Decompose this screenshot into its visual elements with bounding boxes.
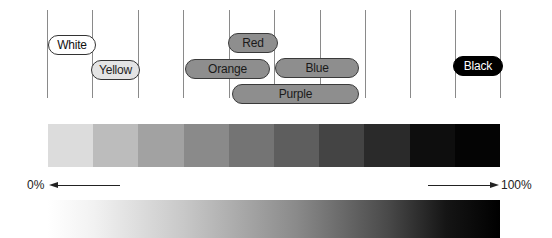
value-step <box>48 124 93 167</box>
scale-max-label: 100% <box>501 178 532 192</box>
arrow-right-icon <box>490 182 499 188</box>
scale-min-label: 0% <box>27 178 44 192</box>
pill-yellow: Yellow <box>91 60 140 80</box>
pill-red: Red <box>228 33 278 53</box>
pill-orange: Orange <box>185 59 270 79</box>
grid-line <box>455 10 456 98</box>
grid-line <box>92 10 93 98</box>
grid-line <box>410 10 411 98</box>
value-step <box>364 124 409 167</box>
grid-line <box>500 10 501 98</box>
value-step <box>138 124 183 167</box>
grid-line <box>138 10 139 98</box>
pill-purple: Purple <box>232 84 359 104</box>
pill-white: White <box>48 35 96 55</box>
value-step <box>319 124 364 167</box>
stepped-value-bar <box>48 124 500 167</box>
grid-line <box>229 10 230 98</box>
pill-blue: Blue <box>275 58 359 78</box>
value-step <box>229 124 274 167</box>
arrow-line-left <box>55 185 120 186</box>
value-step <box>93 124 138 167</box>
grid-line <box>183 10 184 98</box>
continuous-value-gradient <box>48 200 500 238</box>
pill-black: Black <box>453 56 503 76</box>
grid-line <box>365 10 366 98</box>
value-step <box>184 124 229 167</box>
value-step <box>455 124 500 167</box>
value-step <box>410 124 455 167</box>
value-step <box>274 124 319 167</box>
grid-line <box>47 10 48 98</box>
arrow-line-right <box>428 185 492 186</box>
